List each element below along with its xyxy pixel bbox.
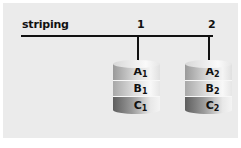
channel-2-label: 2 <box>208 18 216 31</box>
striping-label: striping <box>22 18 69 31</box>
disk-2: A2 B2 C2 <box>185 60 232 117</box>
channel-1-label: 1 <box>137 18 145 31</box>
disk-top <box>185 60 232 68</box>
disk-1-block-b: B1 <box>113 80 160 97</box>
channel-1-line <box>137 35 139 63</box>
channel-2-line <box>208 35 210 63</box>
bus-line <box>21 35 213 37</box>
disk-1-block-c: C1 <box>113 96 160 114</box>
diagram-panel: striping 1 2 A1 B1 C1 A2 B2 C2 <box>3 3 238 138</box>
disk-2-block-b: B2 <box>185 80 232 97</box>
disk-2-block-c: C2 <box>185 96 232 114</box>
disk-top <box>113 60 160 68</box>
disk-1: A1 B1 C1 <box>113 60 160 117</box>
